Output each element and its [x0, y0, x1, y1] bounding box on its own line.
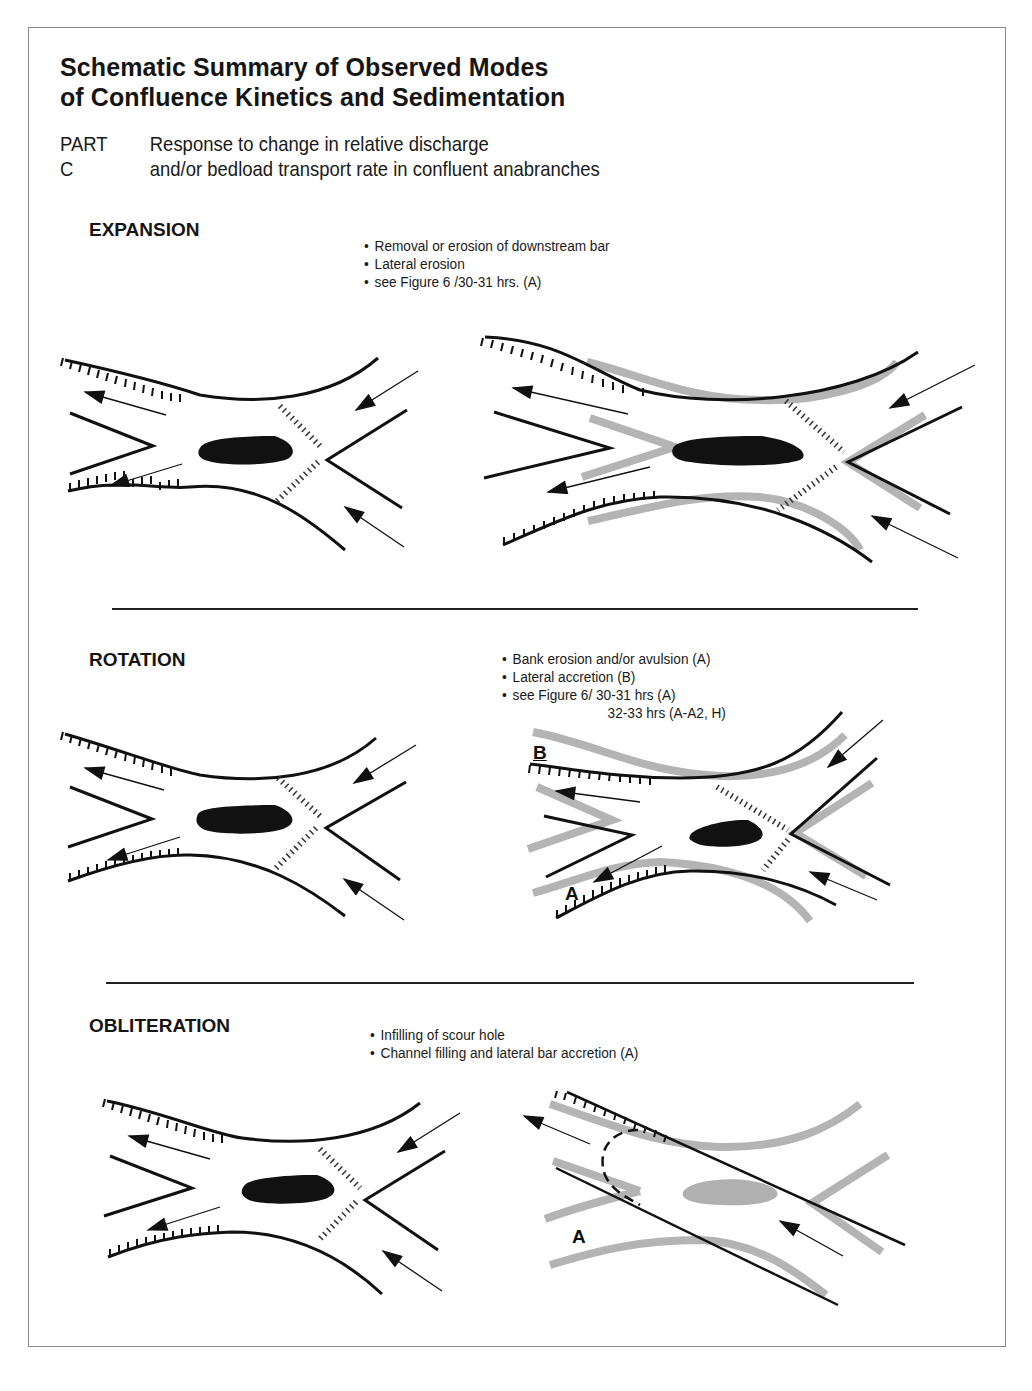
confluence-diagrams	[0, 0, 1032, 1391]
obliteration-after-diagram	[524, 1091, 905, 1305]
flow-arrow	[85, 392, 166, 415]
infilled-scour-hole	[683, 1179, 778, 1205]
rotation-after-diagram	[528, 712, 890, 921]
expansion-after-diagram	[481, 337, 975, 562]
flow-arrow	[356, 371, 418, 410]
scour-hole	[672, 436, 803, 466]
scour-hole	[198, 436, 292, 465]
scour-hole	[689, 820, 762, 847]
flow-arrow	[890, 365, 975, 408]
new-bank-position	[528, 732, 872, 921]
flow-arrow	[524, 1116, 590, 1144]
erosion-hatch	[61, 358, 180, 402]
flow-arrow	[513, 388, 628, 414]
flow-arrow	[780, 1221, 843, 1256]
flow-arrow	[872, 516, 958, 558]
rotation-before-diagram	[61, 732, 416, 920]
obliteration-before-diagram	[103, 1099, 460, 1294]
expansion-before-diagram	[61, 358, 418, 550]
flow-arrow	[345, 507, 404, 547]
flow-arrow	[110, 464, 182, 486]
